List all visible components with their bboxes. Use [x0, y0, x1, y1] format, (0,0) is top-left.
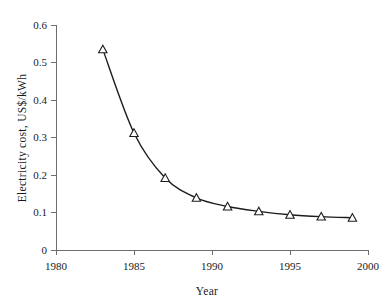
- x-tick-label: 1990: [201, 260, 224, 272]
- x-tick-label: 1995: [279, 260, 302, 272]
- y-tick-label: 0: [42, 244, 48, 256]
- x-tick-label: 2000: [357, 260, 380, 272]
- x-tick-label: 1980: [45, 260, 68, 272]
- y-tick-label: 0.2: [33, 169, 47, 181]
- x-tick-label: 1985: [123, 260, 146, 272]
- y-tick-label: 0.3: [33, 131, 47, 143]
- y-tick-label: 0.1: [33, 206, 47, 218]
- y-tick-label: 0.6: [33, 19, 47, 31]
- line-chart: 0.6 0.5 0.4 0.3 0.2 0.1 0 1980 1985 1990…: [0, 0, 391, 306]
- y-axis-title: Electricity cost, US$/kWh: [16, 74, 29, 203]
- y-tick-label: 0.4: [33, 94, 47, 106]
- y-tick-label: 0.5: [33, 56, 47, 68]
- x-axis-title: Year: [196, 285, 218, 297]
- chart-container: 0.6 0.5 0.4 0.3 0.2 0.1 0 1980 1985 1990…: [0, 0, 391, 306]
